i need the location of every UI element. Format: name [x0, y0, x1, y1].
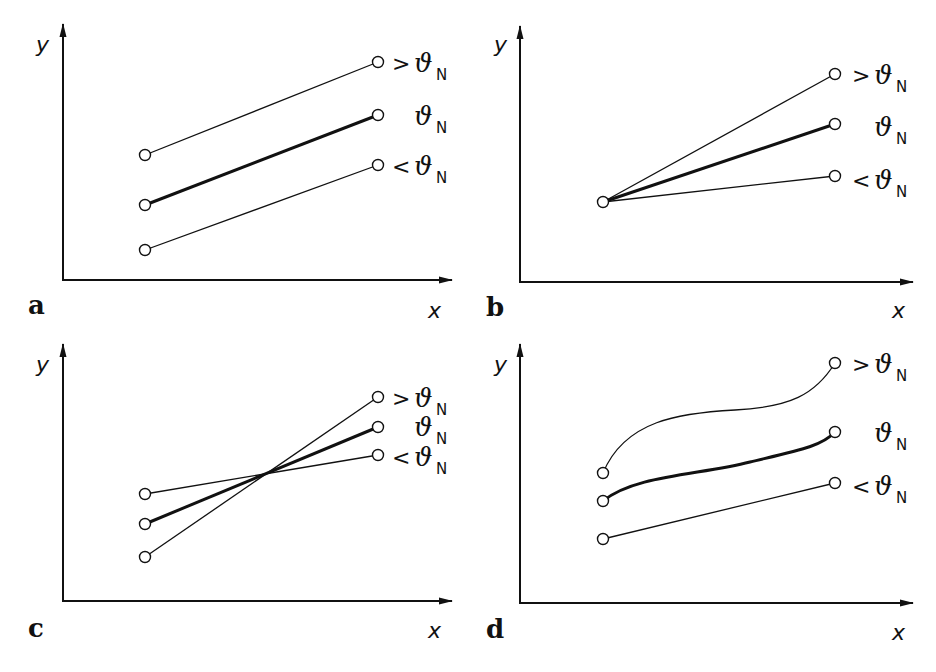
svg-text:ϑ: ϑ	[874, 471, 893, 501]
svg-text:N: N	[436, 119, 447, 137]
line-above	[603, 74, 835, 202]
svg-text:ϑ: ϑ	[874, 60, 893, 90]
x-axis-label: x	[427, 618, 442, 643]
y-axis-label: y	[493, 32, 508, 57]
panel-d: y x d > ϑ N ϑ N < ϑ N	[486, 344, 913, 645]
svg-text:ϑ: ϑ	[874, 418, 893, 448]
data-point	[598, 468, 609, 479]
data-point	[830, 171, 841, 182]
svg-text:ϑ: ϑ	[414, 151, 433, 181]
data-point	[830, 427, 841, 438]
data-point	[373, 422, 384, 433]
svg-text:ϑ: ϑ	[874, 165, 893, 195]
svg-text:N: N	[896, 78, 907, 96]
y-axis-label: y	[493, 352, 508, 377]
label-above: > ϑ N	[852, 349, 907, 385]
panel-label: d	[486, 614, 504, 644]
svg-text:>: >	[392, 386, 410, 411]
curve-above	[603, 363, 835, 473]
svg-text:N: N	[896, 130, 907, 148]
label-above: > ϑ N	[392, 48, 447, 84]
svg-text:>: >	[852, 63, 870, 88]
svg-text:<: <	[852, 168, 870, 193]
svg-text:<: <	[392, 445, 410, 470]
data-point	[373, 160, 384, 171]
line-above	[145, 62, 378, 155]
data-point	[598, 534, 609, 545]
panel-label: a	[28, 290, 45, 320]
x-axis-label: x	[891, 620, 906, 645]
line-nominal	[145, 427, 378, 524]
svg-text:N: N	[436, 169, 447, 187]
data-point	[830, 69, 841, 80]
svg-text:>: >	[392, 51, 410, 76]
data-point	[140, 200, 151, 211]
data-point	[598, 197, 609, 208]
x-axis-label: x	[427, 298, 442, 323]
line-below	[603, 483, 835, 539]
svg-text:ϑ: ϑ	[414, 101, 433, 131]
svg-text:N: N	[436, 66, 447, 84]
svg-text:ϑ: ϑ	[874, 112, 893, 142]
panel-a: y x a > ϑ N ϑ N < ϑ N	[28, 24, 452, 323]
curve-nominal	[603, 432, 835, 501]
panel-label: b	[486, 292, 504, 322]
x-axis-label: x	[891, 298, 906, 323]
line-below	[145, 455, 378, 494]
data-point	[373, 110, 384, 121]
svg-text:ϑ: ϑ	[414, 383, 433, 413]
label-below: < ϑ N	[392, 151, 447, 187]
data-point	[140, 245, 151, 256]
data-point	[140, 489, 151, 500]
label-below: < ϑ N	[852, 471, 907, 507]
svg-text:ϑ: ϑ	[414, 48, 433, 78]
data-point	[140, 150, 151, 161]
line-nominal	[603, 124, 835, 202]
label-nominal: ϑ N	[874, 418, 907, 454]
svg-text:N: N	[896, 367, 907, 385]
data-point	[140, 519, 151, 530]
label-nominal: ϑ N	[874, 112, 907, 148]
data-point	[598, 496, 609, 507]
svg-text:N: N	[896, 489, 907, 507]
label-nominal: ϑ N	[414, 101, 447, 137]
svg-text:ϑ: ϑ	[414, 442, 433, 472]
y-axis-label: y	[35, 32, 50, 57]
data-point	[140, 552, 151, 563]
data-point	[830, 119, 841, 130]
label-below: < ϑ N	[852, 165, 907, 201]
data-point	[373, 57, 384, 68]
svg-text:N: N	[896, 436, 907, 454]
svg-text:N: N	[436, 430, 447, 448]
panel-c: y x c > ϑ N ϑ N < ϑ N	[28, 344, 452, 643]
svg-text:ϑ: ϑ	[874, 349, 893, 379]
y-axis-label: y	[35, 352, 50, 377]
line-nominal	[145, 115, 378, 205]
svg-text:N: N	[436, 460, 447, 478]
label-above: > ϑ N	[852, 60, 907, 96]
figure: y x a > ϑ N ϑ N < ϑ N y x b	[0, 0, 936, 672]
data-point	[830, 478, 841, 489]
line-below	[145, 165, 378, 250]
panel-b: y x b > ϑ N ϑ N < ϑ N	[486, 26, 913, 323]
data-point	[373, 450, 384, 461]
svg-text:<: <	[852, 474, 870, 499]
data-point	[373, 392, 384, 403]
figure-canvas: y x a > ϑ N ϑ N < ϑ N y x b	[0, 0, 936, 672]
svg-text:N: N	[436, 401, 447, 419]
data-point	[830, 358, 841, 369]
svg-text:N: N	[896, 183, 907, 201]
panel-label: c	[28, 613, 44, 643]
svg-text:<: <	[392, 154, 410, 179]
svg-text:ϑ: ϑ	[414, 412, 433, 442]
svg-text:>: >	[852, 352, 870, 377]
